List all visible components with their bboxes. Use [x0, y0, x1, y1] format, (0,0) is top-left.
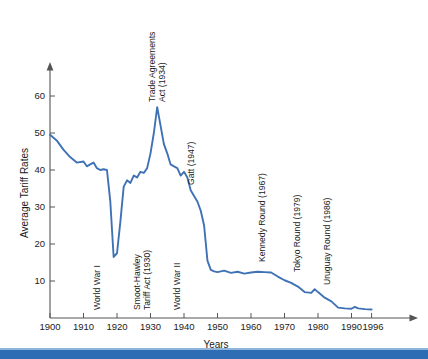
annotation-world-war-1: World War I: [92, 265, 102, 310]
y-tick-label: 20: [34, 238, 45, 249]
banner-bar: [0, 350, 428, 359]
y-tick-label: 60: [34, 90, 45, 101]
y-axis-arrow: [47, 62, 54, 71]
annotation-world-war-2: World War II: [172, 263, 182, 310]
annotation-tokyo-round: Tokyo Round (1979): [292, 194, 302, 272]
annotation-kennedy-round: Kennedy Round (1967): [257, 173, 267, 262]
y-tick-label: 10: [34, 275, 45, 286]
y-tick-label: 30: [34, 201, 45, 212]
annotation-smoot-hawley-line1: Smoot-Hawley: [132, 253, 142, 310]
annotation-uruguay-round: Uruguay Round (1986): [322, 197, 332, 285]
annotation-gatt: Gatt (1947): [186, 141, 196, 185]
annotation-trade-agreements-act-line2: Act (1934): [157, 62, 167, 102]
x-tick-label: 1900: [39, 321, 60, 332]
axes: [47, 62, 418, 321]
x-axis-ticks: 1900 1910 1920 1930 1940 1950 1960 1970 …: [39, 313, 383, 332]
y-tick-label: 40: [34, 164, 45, 175]
x-tick-label: 1930: [140, 321, 161, 332]
x-tick-label: 1950: [207, 321, 228, 332]
x-tick-label: 1960: [240, 321, 261, 332]
y-axis-title: Average Tariff Rates: [19, 148, 30, 238]
chart-annotations: World War I Smoot-Hawley Tariff Act (193…: [92, 32, 332, 310]
bottom-banner: [0, 348, 428, 359]
annotation-smoot-hawley-line2: Tariff Act (1930): [142, 250, 152, 310]
x-tick-label: 1990: [341, 321, 362, 332]
x-tick-label: 1940: [173, 321, 194, 332]
tariff-rates-line-chart: 10 20 30 40 50 60 1900 1910 1920 1930 19…: [0, 0, 428, 359]
x-tick-label: 1970: [274, 321, 295, 332]
x-axis-arrow: [410, 315, 419, 322]
x-tick-label: 1996: [362, 321, 383, 332]
annotation-trade-agreements-act-line1: Trade Agreements: [147, 32, 157, 102]
x-tick-label: 1910: [73, 321, 94, 332]
chart-figure: 10 20 30 40 50 60 1900 1910 1920 1930 19…: [0, 0, 428, 359]
x-tick-label: 1920: [106, 321, 127, 332]
y-tick-label: 50: [34, 127, 45, 138]
y-axis-ticks: 10 20 30 40 50 60: [34, 90, 55, 286]
x-tick-label: 1980: [307, 321, 328, 332]
